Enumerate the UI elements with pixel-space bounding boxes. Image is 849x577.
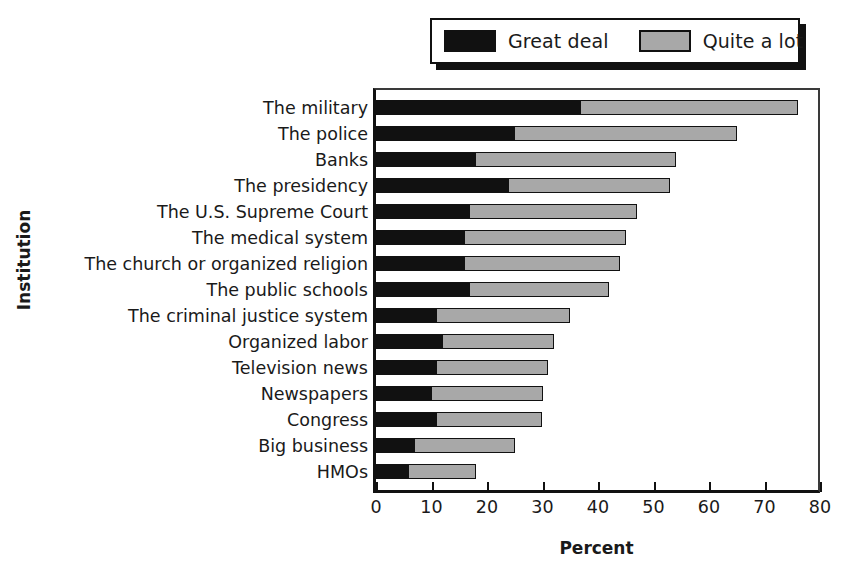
bar-segment-quite-a-lot (465, 256, 620, 271)
bar-segment-quite-a-lot (415, 438, 515, 453)
legend-entry-quite-a-lot: Quite a lot (639, 20, 804, 62)
bar-segment-great-deal (376, 308, 437, 323)
y-axis-category-label: Big business (40, 437, 368, 455)
bar-segment-great-deal (376, 334, 443, 349)
bar-row (376, 282, 609, 297)
bar-row (376, 360, 548, 375)
x-axis-tick-label: 40 (578, 497, 618, 517)
bar-row (376, 464, 476, 479)
x-axis-tick-mark (376, 482, 378, 492)
bar-segment-quite-a-lot (509, 178, 670, 193)
x-axis-tick-label: 80 (800, 497, 840, 517)
bar-segment-quite-a-lot (476, 152, 676, 167)
y-axis-category-label: The church or organized religion (40, 255, 368, 273)
x-axis-tick-mark (654, 482, 656, 492)
x-axis-tick-mark (543, 482, 545, 492)
y-axis-category-label: The U.S. Supreme Court (40, 203, 368, 221)
legend-swatch-quite-a-lot-icon (639, 30, 691, 52)
bar-segment-great-deal (376, 204, 470, 219)
x-axis-tick-mark (765, 482, 767, 492)
bar-segment-great-deal (376, 230, 465, 245)
x-axis-tick-label: 60 (689, 497, 729, 517)
x-axis-tick-label: 10 (412, 497, 452, 517)
bar-segment-quite-a-lot (443, 334, 554, 349)
x-axis-tick-label: 0 (356, 497, 396, 517)
bar-segment-great-deal (376, 282, 470, 297)
x-axis-tick-label: 50 (634, 497, 674, 517)
bar-segment-great-deal (376, 256, 465, 271)
bar-row (376, 334, 554, 349)
legend-entry-great-deal: Great deal (444, 20, 609, 62)
x-axis-tick-mark (432, 482, 434, 492)
y-axis-category-label: Banks (40, 151, 368, 169)
y-axis-category-label: The military (40, 99, 368, 117)
y-axis-category-label: Organized labor (40, 333, 368, 351)
bar-row (376, 178, 670, 193)
x-axis-tick-label: 30 (523, 497, 563, 517)
bar-segment-great-deal (376, 464, 409, 479)
x-axis-tick-mark (598, 482, 600, 492)
bar-row (376, 152, 676, 167)
chart-legend: Great deal Quite a lot (430, 18, 800, 64)
bar-segment-quite-a-lot (515, 126, 737, 141)
bars-layer (376, 88, 820, 490)
bar-segment-quite-a-lot (432, 386, 543, 401)
y-axis-title: Institution (14, 190, 34, 330)
bar-segment-quite-a-lot (409, 464, 476, 479)
y-axis-category-label: The medical system (40, 229, 368, 247)
y-axis-category-label: The public schools (40, 281, 368, 299)
bar-segment-quite-a-lot (437, 360, 548, 375)
bar-segment-great-deal (376, 360, 437, 375)
y-axis-category-label: Congress (40, 411, 368, 429)
stacked-bar-chart: Great deal Quite a lot Institution The m… (0, 0, 849, 577)
y-axis-category-label: Newspapers (40, 385, 368, 403)
bar-segment-quite-a-lot (437, 308, 570, 323)
x-axis-tick-mark (487, 482, 489, 492)
bar-segment-great-deal (376, 438, 415, 453)
x-axis-ticks: 01020304050607080 (373, 493, 823, 533)
bar-row (376, 412, 542, 427)
bar-row (376, 256, 620, 271)
bar-segment-quite-a-lot (581, 100, 797, 115)
bar-segment-great-deal (376, 386, 432, 401)
x-axis-tick-label: 20 (467, 497, 507, 517)
bar-segment-quite-a-lot (470, 282, 609, 297)
y-axis-category-label: The police (40, 125, 368, 143)
x-axis-tick-mark (820, 482, 822, 492)
legend-swatch-great-deal-icon (444, 30, 496, 52)
bar-segment-quite-a-lot (437, 412, 542, 427)
x-axis-tick-label: 70 (745, 497, 785, 517)
x-axis-title: Percent (373, 538, 820, 558)
bar-segment-great-deal (376, 100, 581, 115)
bar-row (376, 230, 626, 245)
bar-row (376, 126, 737, 141)
y-axis-category-label: The presidency (40, 177, 368, 195)
bar-segment-quite-a-lot (465, 230, 626, 245)
bar-row (376, 438, 515, 453)
bar-segment-great-deal (376, 126, 515, 141)
bar-row (376, 386, 543, 401)
legend-box: Great deal Quite a lot (430, 18, 800, 64)
y-axis-category-label: HMOs (40, 463, 368, 481)
bar-segment-great-deal (376, 412, 437, 427)
bar-segment-great-deal (376, 152, 476, 167)
legend-label-quite-a-lot: Quite a lot (703, 30, 804, 52)
y-axis-category-label: The criminal justice system (40, 307, 368, 325)
y-axis-category-labels: The militaryThe policeBanksThe presidenc… (40, 88, 368, 490)
bar-segment-great-deal (376, 178, 509, 193)
bar-row (376, 100, 798, 115)
legend-label-great-deal: Great deal (508, 30, 609, 52)
y-axis-category-label: Television news (40, 359, 368, 377)
bar-row (376, 308, 570, 323)
bar-row (376, 204, 637, 219)
x-axis-tick-mark (709, 482, 711, 492)
bar-segment-quite-a-lot (470, 204, 637, 219)
